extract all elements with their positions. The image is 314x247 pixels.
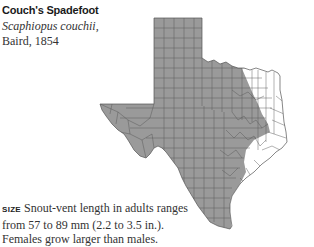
size-description: SIZESnout-vent length in adults ranges f… xyxy=(2,201,202,247)
size-text: Snout-vent length in adults ranges from … xyxy=(2,201,188,246)
size-label: SIZE xyxy=(2,205,21,214)
